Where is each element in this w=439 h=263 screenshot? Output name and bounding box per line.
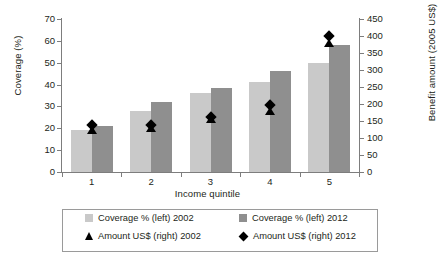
bar-coverage-2012 xyxy=(211,88,232,172)
y-axis-right-tick xyxy=(359,121,364,122)
y-axis-right-tick-label: 450 xyxy=(367,13,397,24)
bar-coverage-2002 xyxy=(71,130,92,172)
bar-coverage-2012 xyxy=(329,45,350,172)
x-axis-tick xyxy=(300,172,301,177)
y-axis-right-title: Benefit amount (2005 US$) xyxy=(426,3,437,123)
bar-coverage-2012 xyxy=(151,102,172,172)
chart-legend: Coverage % (left) 2002 Coverage % (left)… xyxy=(62,209,378,252)
x-axis-tick-label: 5 xyxy=(309,176,349,187)
square-light-icon xyxy=(85,214,93,222)
bar-coverage-2002 xyxy=(130,111,151,172)
x-axis-tick-label: 1 xyxy=(72,176,112,187)
bar-coverage-2002 xyxy=(249,82,270,172)
x-axis-tick xyxy=(181,172,182,177)
x-axis-title: Income quintile xyxy=(45,188,370,199)
legend-label: Coverage % (left) 2012 xyxy=(252,213,348,223)
bar-coverage-2012 xyxy=(270,71,291,172)
y-axis-left-tick-label: 60 xyxy=(25,35,55,46)
bar-coverage-2002 xyxy=(308,63,329,172)
y-axis-right-tick xyxy=(359,138,364,139)
x-axis-tick xyxy=(121,172,122,177)
y-axis-left-title: Coverage (%) xyxy=(12,11,23,121)
x-axis-line xyxy=(61,172,360,173)
x-axis-tick-label: 4 xyxy=(250,176,290,187)
y-axis-left-tick-label: 30 xyxy=(25,100,55,111)
x-axis-tick-label: 3 xyxy=(191,176,231,187)
y-axis-right-tick-label: 100 xyxy=(367,132,397,143)
y-axis-right-tick-label: 200 xyxy=(367,98,397,109)
legend-item-amount-2002: Amount US$ (right) 2002 xyxy=(85,231,201,241)
y-axis-right-tick-label: 350 xyxy=(367,47,397,58)
y-axis-left-tick-label: 0 xyxy=(25,166,55,177)
y-axis-right-tick-label: 250 xyxy=(367,81,397,92)
square-dark-icon xyxy=(239,214,247,222)
x-axis-tick xyxy=(240,172,241,177)
legend-row-bars: Coverage % (left) 2002 Coverage % (left)… xyxy=(71,213,369,230)
y-axis-left-tick-label: 50 xyxy=(25,57,55,68)
legend-item-coverage-2012: Coverage % (left) 2012 xyxy=(239,213,348,223)
y-axis-right-tick xyxy=(359,70,364,71)
y-axis-right-tick xyxy=(359,104,364,105)
legend-label: Coverage % (left) 2002 xyxy=(98,213,194,223)
y-axis-left-tick-label: 20 xyxy=(25,122,55,133)
x-axis-tick xyxy=(359,172,360,177)
y-axis-right-tick-label: 50 xyxy=(367,149,397,160)
y-axis-right-tick xyxy=(359,87,364,88)
x-axis-tick xyxy=(62,172,63,177)
legend-item-coverage-2002: Coverage % (left) 2002 xyxy=(85,213,194,223)
diamond-marker-icon xyxy=(239,231,249,241)
y-axis-right-tick-label: 400 xyxy=(367,30,397,41)
bar-coverage-2002 xyxy=(190,93,211,172)
y-axis-right-tick xyxy=(359,53,364,54)
y-axis-right-tick xyxy=(359,19,364,20)
plot-area xyxy=(62,19,359,172)
y-axis-left-tick-label: 10 xyxy=(25,144,55,155)
triangle-marker-icon xyxy=(85,232,93,240)
y-axis-right-line xyxy=(359,18,360,173)
y-axis-right-tick-label: 0 xyxy=(367,166,397,177)
legend-item-amount-2012: Amount US$ (right) 2012 xyxy=(239,231,356,241)
legend-label: Amount US$ (right) 2012 xyxy=(253,231,356,241)
legend-label: Amount US$ (right) 2002 xyxy=(98,231,201,241)
y-axis-right-tick xyxy=(359,36,364,37)
y-axis-right-tick-label: 300 xyxy=(367,64,397,75)
y-axis-right-tick-label: 150 xyxy=(367,115,397,126)
y-axis-right-tick xyxy=(359,155,364,156)
legend-row-markers: Amount US$ (right) 2002 Amount US$ (righ… xyxy=(71,231,369,248)
chart-figure: Coverage (%) Benefit amount (2005 US$) I… xyxy=(0,0,439,263)
y-axis-left-tick-label: 40 xyxy=(25,79,55,90)
y-axis-left-tick-label: 70 xyxy=(25,13,55,24)
x-axis-tick-label: 2 xyxy=(131,176,171,187)
